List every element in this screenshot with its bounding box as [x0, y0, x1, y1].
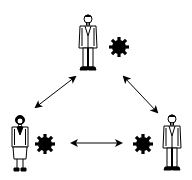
- gear-icon: [35, 134, 55, 154]
- gear-icon: [109, 37, 129, 57]
- right-node: [133, 115, 181, 170]
- woman-figure-icon: [12, 116, 28, 172]
- relationship-diagram: [0, 0, 192, 180]
- man-figure-icon: [163, 115, 181, 170]
- double-arrow-top-left: [36, 77, 75, 107]
- gear-icon: [133, 134, 153, 154]
- man-figure-icon: [79, 15, 97, 70]
- double-arrow-top-right: [124, 77, 157, 112]
- left-node: [12, 116, 55, 172]
- top-node: [79, 15, 129, 70]
